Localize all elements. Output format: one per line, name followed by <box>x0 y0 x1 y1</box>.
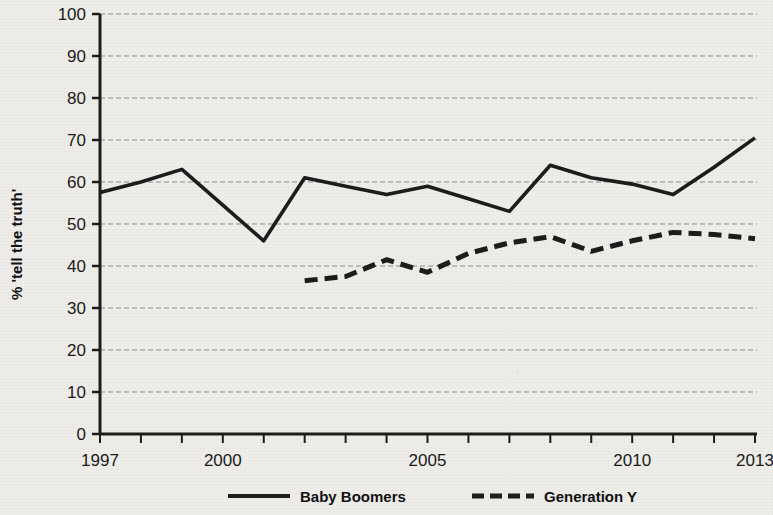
y-tick-label: 80 <box>67 89 86 108</box>
chart-svg: 0102030405060708090100 19972000200520102… <box>0 0 773 515</box>
y-tick-label: 10 <box>67 383 86 402</box>
x-tick-label: 1997 <box>81 451 119 470</box>
y-tick-label: 60 <box>67 173 86 192</box>
y-axis-title: % 'tell the truth' <box>8 189 25 300</box>
y-tick-label: 30 <box>67 299 86 318</box>
series-line-baby-boomers <box>100 138 755 241</box>
data-series-group <box>100 138 755 281</box>
chart-legend: Baby BoomersGeneration Y <box>228 488 637 505</box>
x-axis-tick-labels: 19972000200520102013 <box>81 451 773 470</box>
y-tick-label: 70 <box>67 131 86 150</box>
series-line-generation-y <box>305 232 755 280</box>
legend-label-generation-y: Generation Y <box>544 488 637 505</box>
x-tick-label: 2013 <box>736 451 773 470</box>
y-tick-label: 90 <box>67 47 86 66</box>
x-tick-label: 2000 <box>204 451 242 470</box>
y-tick-label: 20 <box>67 341 86 360</box>
x-tick-label: 2010 <box>613 451 651 470</box>
y-tick-label: 100 <box>58 5 86 24</box>
y-tick-label: 40 <box>67 257 86 276</box>
y-axis-tick-labels: 0102030405060708090100 <box>58 5 86 444</box>
gridlines-group <box>100 14 757 392</box>
y-tick-label: 50 <box>67 215 86 234</box>
x-tick-label: 2005 <box>409 451 447 470</box>
y-tick-label: 0 <box>77 425 86 444</box>
line-chart: 0102030405060708090100 19972000200520102… <box>0 0 773 515</box>
legend-label-baby-boomers: Baby Boomers <box>300 488 406 505</box>
